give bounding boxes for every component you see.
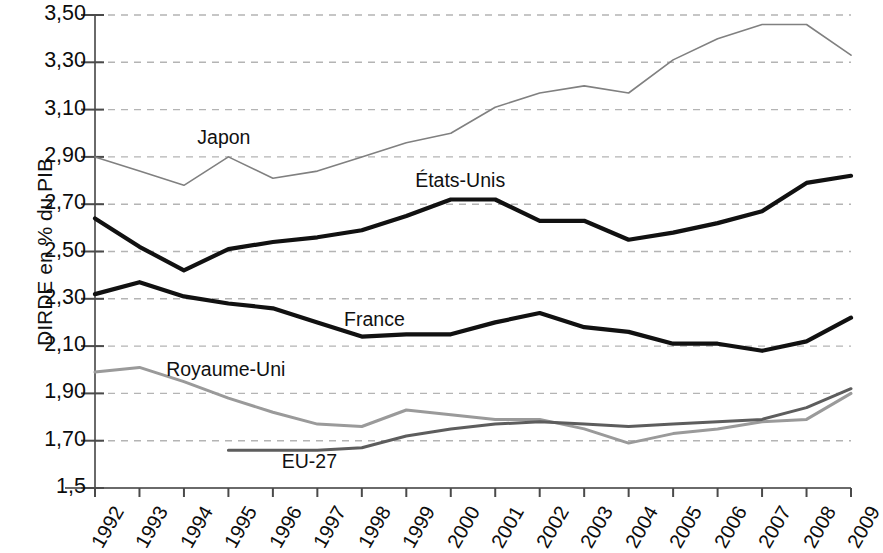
y-tick-label: 3,10 [8, 96, 86, 121]
y-tick-label: 3,30 [8, 48, 86, 73]
y-tick-label: 2,30 [8, 285, 86, 310]
series-label-france: France [344, 308, 405, 331]
y-tick-label: 2,70 [8, 190, 86, 215]
series-label-japon: Japon [197, 126, 250, 149]
y-axis-tick-labels: 3,503,303,102,902,702,502,302,101,901,70… [0, 0, 86, 548]
y-tick-label: 3,50 [8, 1, 86, 26]
y-tick-label: 1,70 [8, 427, 86, 452]
series-label-eu-27: EU-27 [282, 450, 337, 473]
y-tick-label: 1,5 [8, 474, 86, 499]
series-line [95, 25, 851, 186]
series-label-royaume-uni: Royaume-Uni [166, 358, 285, 381]
y-tick-label: 2,50 [8, 238, 86, 263]
y-tick-label: 1,90 [8, 379, 86, 404]
series-label--tats-unis: États-Unis [415, 169, 505, 192]
y-tick-label: 2,10 [8, 332, 86, 357]
series-line [95, 282, 851, 351]
y-tick-label: 2,90 [8, 143, 86, 168]
